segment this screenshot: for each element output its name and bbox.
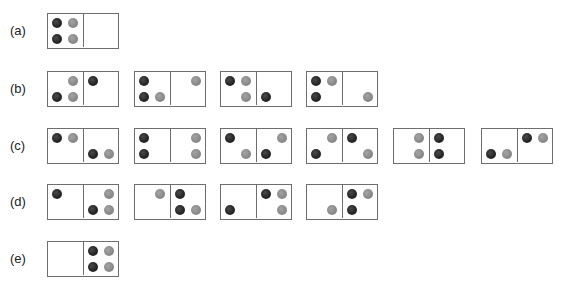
grey-ball-icon [104,189,114,199]
configuration-box [393,128,465,164]
configuration-box [481,128,553,164]
left-compartment [135,129,170,162]
dark-ball-icon [225,205,235,215]
right-compartment [170,185,206,218]
grey-ball-icon [241,92,251,102]
grey-ball-icon [277,205,287,215]
grey-ball-icon [414,133,424,143]
grey-ball-icon [191,76,201,86]
left-compartment [48,72,83,105]
configuration-box [47,71,119,107]
right-compartment [256,185,292,218]
dark-ball-icon [434,149,444,159]
grey-ball-icon [241,76,251,86]
left-compartment [48,185,83,218]
configuration-box [134,184,206,220]
grey-ball-icon [155,92,165,102]
grey-ball-icon [363,92,373,102]
configuration-box [306,128,378,164]
dark-ball-icon [347,189,357,199]
grey-ball-icon [363,149,373,159]
row-label: (e) [10,250,40,268]
configuration-box [47,184,119,220]
grey-ball-icon [277,189,287,199]
dark-ball-icon [311,76,321,86]
grey-ball-icon [414,149,424,159]
left-compartment [135,185,170,218]
right-compartment [342,129,378,162]
grey-ball-icon [68,34,78,44]
dark-ball-icon [139,133,149,143]
dark-ball-icon [522,133,532,143]
configuration-box [47,241,119,277]
right-compartment [83,242,119,275]
row-c: (c) [0,128,573,164]
dark-ball-icon [52,92,62,102]
dark-ball-icon [261,189,271,199]
right-compartment [342,185,378,218]
grey-ball-icon [502,149,512,159]
row-b: (b) [0,71,573,107]
dark-ball-icon [88,76,98,86]
left-compartment [394,129,429,162]
dark-ball-icon [261,149,271,159]
grey-ball-icon [241,149,251,159]
configuration-box [306,184,378,220]
configuration-box [47,13,119,49]
row-d: (d) [0,184,573,220]
left-compartment [48,129,83,162]
right-compartment [342,72,378,105]
right-compartment [83,72,119,105]
row-a: (a) [0,13,573,49]
dark-ball-icon [311,149,321,159]
right-compartment [170,129,206,162]
configuration-box [134,71,206,107]
dark-ball-icon [88,149,98,159]
left-compartment [221,72,256,105]
grey-ball-icon [327,205,337,215]
grey-ball-icon [191,133,201,143]
dark-ball-icon [139,92,149,102]
row-label: (d) [10,193,40,211]
dark-ball-icon [88,205,98,215]
dark-ball-icon [486,149,496,159]
dark-ball-icon [434,133,444,143]
left-compartment [221,185,256,218]
dark-ball-icon [347,133,357,143]
dark-ball-icon [225,76,235,86]
configuration-box [220,128,292,164]
left-compartment [221,129,256,162]
grey-ball-icon [68,18,78,28]
left-compartment [307,129,342,162]
dark-ball-icon [139,76,149,86]
dark-ball-icon [52,34,62,44]
grey-ball-icon [104,205,114,215]
right-compartment [83,129,119,162]
right-compartment [517,129,553,162]
row-label: (b) [10,80,40,98]
left-compartment [135,72,170,105]
dark-ball-icon [225,133,235,143]
grey-ball-icon [68,92,78,102]
right-compartment [256,72,292,105]
left-compartment [48,14,83,47]
row-label: (c) [10,137,40,155]
dark-ball-icon [175,205,185,215]
grey-ball-icon [538,133,548,143]
grey-ball-icon [68,76,78,86]
right-compartment [256,129,292,162]
left-compartment [307,185,342,218]
row-label: (a) [10,22,40,40]
dark-ball-icon [139,149,149,159]
row-e: (e) [0,241,573,277]
grey-ball-icon [68,133,78,143]
configuration-box [220,184,292,220]
right-compartment [83,185,119,218]
grey-ball-icon [155,189,165,199]
dark-ball-icon [261,92,271,102]
right-compartment [83,14,119,47]
grey-ball-icon [104,149,114,159]
grey-ball-icon [191,205,201,215]
grey-ball-icon [191,149,201,159]
grey-ball-icon [327,76,337,86]
